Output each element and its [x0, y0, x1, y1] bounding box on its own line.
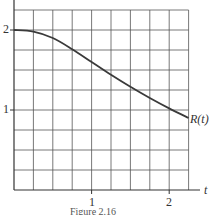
x-axis-label: t [204, 183, 207, 198]
axes [10, 0, 200, 194]
y-tick-2: 2 [3, 22, 9, 37]
x-tick-2: 2 [166, 195, 172, 210]
grid [14, 10, 189, 190]
y-tick-1: 1 [3, 102, 9, 117]
curve-label: R(t) [190, 112, 209, 127]
figure-caption: Figure 2.16 [70, 206, 116, 215]
curve-r-of-t [14, 30, 189, 118]
chart-canvas [0, 0, 213, 215]
